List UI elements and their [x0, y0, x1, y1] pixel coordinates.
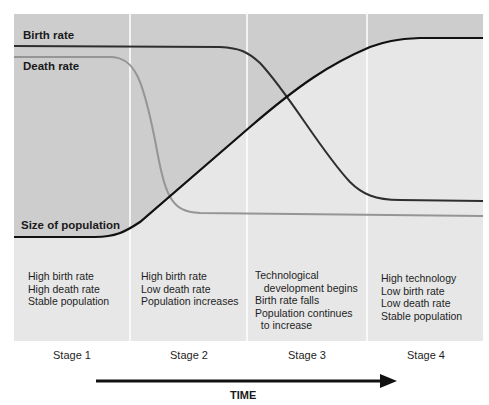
- stage-3-label: Stage 3: [249, 349, 365, 361]
- population-label: Size of population: [21, 219, 120, 231]
- stage-2-description: High birth rate Low death rate Populatio…: [141, 270, 238, 308]
- stage-2-label: Stage 2: [131, 349, 247, 361]
- death-rate-label: Death rate: [23, 60, 79, 72]
- stage-1-description: High birth rate High death rate Stable p…: [28, 270, 109, 308]
- birth-rate-label: Birth rate: [23, 29, 74, 41]
- time-axis-label: TIME: [230, 389, 256, 401]
- stage-4-description: High technology Low birth rate Low death…: [381, 272, 462, 322]
- time-arrow-head-icon: [380, 374, 397, 388]
- stage-1-label: Stage 1: [14, 349, 130, 361]
- stage-3-description: Technological development begins Birth r…: [255, 269, 358, 332]
- stage-4-label: Stage 4: [368, 349, 484, 361]
